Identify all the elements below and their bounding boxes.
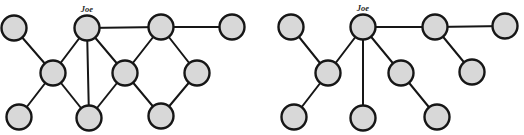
graph-node-bottom-right (149, 104, 174, 129)
figure-two-network-diagrams: JoeJoe (0, 0, 524, 135)
right-graph: Joe (279, 3, 518, 131)
graph-node-joe (351, 15, 376, 40)
graph-node-joe (75, 16, 100, 41)
graph-node-bottom-right (425, 105, 450, 130)
graph-node-mid-left (316, 61, 341, 86)
graph-node-far-top-right (220, 15, 245, 40)
graph-node-bottom-center (77, 106, 102, 131)
graph-node-center (113, 61, 138, 86)
node-label-joe: Joe (356, 3, 370, 13)
graph-node-top-right (423, 15, 448, 40)
graph-node-bottom-left (282, 105, 307, 130)
graph-node-top-left (279, 15, 304, 40)
graph-node-center (389, 61, 414, 86)
graph-node-top-right (149, 15, 174, 40)
graph-node-bottom-center (351, 106, 376, 131)
graph-node-mid-right (460, 60, 485, 85)
graph-node-mid-left (41, 61, 66, 86)
graph-node-bottom-left (7, 105, 32, 130)
left-graph: Joe (2, 4, 245, 131)
network-diagram-canvas: JoeJoe (0, 0, 524, 135)
graph-node-top-left (2, 16, 27, 41)
graph-node-mid-right (185, 61, 210, 86)
graph-node-far-top-right (493, 14, 518, 39)
node-label-joe: Joe (80, 4, 94, 14)
